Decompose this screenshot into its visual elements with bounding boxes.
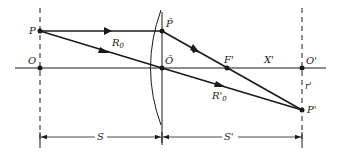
arrow-head-icon xyxy=(214,81,226,87)
point-P-prime xyxy=(300,108,305,113)
label-R-prime-0: R'0 xyxy=(211,90,227,103)
label-r-prime: r' xyxy=(305,81,312,91)
label-P-tilde: P̃ xyxy=(165,18,173,29)
label-R0: R0 xyxy=(111,37,125,50)
arrow-head-icon xyxy=(104,27,112,35)
point-P-tilde xyxy=(160,29,165,34)
refracted-ray xyxy=(162,31,302,110)
label-S: S xyxy=(97,131,104,142)
label-X-prime: X' xyxy=(263,54,274,65)
label-F-prime: F' xyxy=(223,54,234,65)
arrow-head-icon xyxy=(98,47,110,53)
label-P-prime: P' xyxy=(306,104,316,115)
point-O xyxy=(38,66,43,71)
label-S-prime: S' xyxy=(224,131,234,142)
lens-ray-diagram: P O P̃ Õ F' X' O' r' P' R0 R'0 S S' xyxy=(0,0,341,156)
point-O-tilde xyxy=(160,66,165,71)
label-O-prime: O' xyxy=(306,55,317,66)
label-P: P xyxy=(28,25,36,36)
chief-ray-image xyxy=(162,68,302,110)
label-O-tilde: Õ xyxy=(165,55,173,66)
point-P xyxy=(38,29,43,34)
point-O-prime xyxy=(300,66,305,71)
point-F-prime xyxy=(225,66,230,71)
label-O: O xyxy=(28,55,36,66)
